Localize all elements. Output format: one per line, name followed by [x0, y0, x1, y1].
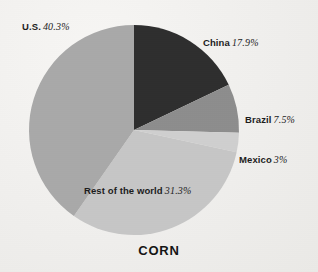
pie-label-rest-of-world-value: 31.3% — [165, 185, 192, 196]
pie-label-mexico: Mexico3% — [239, 155, 288, 165]
pie-label-us-name: U.S. — [22, 21, 41, 32]
chart-title: CORN — [0, 243, 318, 258]
pie-label-rest-of-world: Rest of the world31.3% — [84, 186, 192, 196]
pie-label-mexico-value: 3% — [274, 154, 288, 165]
pie-chart-svg — [0, 0, 318, 272]
pie-chart-figure: U.S.40.3% China17.9% Brazil7.5% Mexico3%… — [0, 0, 318, 272]
pie-label-china: China17.9% — [203, 38, 259, 48]
pie-label-china-value: 17.9% — [232, 37, 259, 48]
pie-label-china-name: China — [203, 37, 230, 48]
pie-label-us-value: 40.3% — [43, 21, 70, 32]
pie-label-brazil: Brazil7.5% — [245, 115, 295, 125]
pie-slice-group — [29, 25, 239, 235]
pie-label-rest-of-world-name: Rest of the world — [84, 185, 163, 196]
pie-label-brazil-name: Brazil — [245, 114, 271, 125]
pie-label-mexico-name: Mexico — [239, 154, 272, 165]
pie-label-brazil-value: 7.5% — [273, 114, 295, 125]
pie-label-us: U.S.40.3% — [22, 22, 70, 32]
